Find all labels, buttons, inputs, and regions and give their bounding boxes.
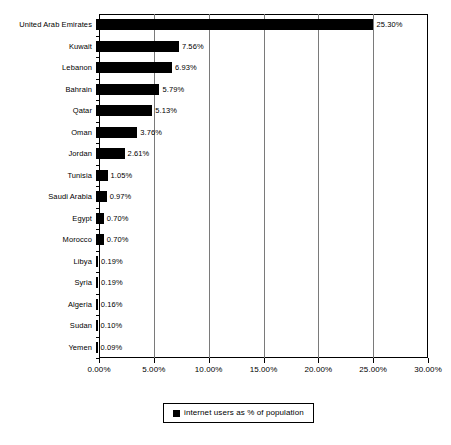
category-label: Sudan <box>0 322 96 330</box>
y-tick <box>96 186 100 187</box>
category-label: Qatar <box>0 107 96 115</box>
x-tick-label: 10.00% <box>195 366 223 374</box>
category-label: Saudi Arabia <box>0 193 96 201</box>
bar <box>96 299 98 310</box>
y-tick <box>96 208 100 209</box>
category-label: Algeria <box>0 301 96 309</box>
y-tick <box>96 272 100 273</box>
y-tick <box>96 79 100 80</box>
bar <box>96 170 108 181</box>
bar-value-label: 0.70% <box>107 215 129 223</box>
bar-value-label: 7.56% <box>182 43 204 51</box>
y-tick <box>96 337 100 338</box>
bar-value-label: 0.16% <box>101 301 123 309</box>
y-tick <box>96 122 100 123</box>
y-tick <box>96 57 100 58</box>
bar <box>96 105 152 116</box>
category-label: Lebanon <box>0 64 96 72</box>
x-tick <box>209 358 210 363</box>
y-tick <box>96 143 100 144</box>
category-label: Morocco <box>0 236 96 244</box>
category-label: Tunisia <box>0 172 96 180</box>
x-axis-labels: 0.00%5.00%10.00%15.00%20.00%25.00%30.00% <box>0 366 451 378</box>
bar-value-label: 2.61% <box>128 150 150 158</box>
y-tick <box>96 165 100 166</box>
bar-row: Morocco0.70% <box>0 229 451 251</box>
bar-value-label: 5.13% <box>155 107 177 115</box>
legend-label: internet users as % of population <box>184 409 304 417</box>
bar-row: Qatar5.13% <box>0 100 451 122</box>
bar-row: United Arab Emirates25.30% <box>0 14 451 36</box>
bar <box>96 277 98 288</box>
gridline <box>264 14 265 358</box>
bar-track: 0.10% <box>96 315 451 337</box>
gridline <box>318 14 319 358</box>
bar-row: Oman3.76% <box>0 122 451 144</box>
category-label: United Arab Emirates <box>0 21 96 29</box>
bar-track: 25.30% <box>96 14 451 36</box>
bar <box>96 19 373 30</box>
bar-row: Lebanon6.93% <box>0 57 451 79</box>
bar-row: Algeria0.16% <box>0 294 451 316</box>
x-tick-label: 30.00% <box>414 366 442 374</box>
x-tick-label: 5.00% <box>142 366 165 374</box>
bar <box>96 84 159 95</box>
x-tick-label: 20.00% <box>304 366 332 374</box>
bar-row: Egypt0.70% <box>0 208 451 230</box>
x-tick <box>373 358 374 363</box>
bar <box>96 148 125 159</box>
bar <box>96 320 98 331</box>
bar-value-label: 0.19% <box>101 279 123 287</box>
bar-track: 5.13% <box>96 100 451 122</box>
gridline <box>373 14 374 358</box>
y-tick <box>96 229 100 230</box>
bar <box>96 213 104 224</box>
bar-track: 3.76% <box>96 122 451 144</box>
bar-track: 0.16% <box>96 294 451 316</box>
bar-track: 5.79% <box>96 79 451 101</box>
bar-track: 0.97% <box>96 186 451 208</box>
y-tick <box>96 315 100 316</box>
bar-row: Tunisia1.05% <box>0 165 451 187</box>
bar-rows: United Arab Emirates25.30%Kuwait7.56%Leb… <box>0 14 451 358</box>
chart-legend: internet users as % of population <box>163 403 314 423</box>
category-label: Libya <box>0 258 96 266</box>
bar-value-label: 0.70% <box>107 236 129 244</box>
x-tick <box>318 358 319 363</box>
bar-value-label: 3.76% <box>140 129 162 137</box>
gridline <box>209 14 210 358</box>
plot-area: United Arab Emirates25.30%Kuwait7.56%Leb… <box>0 0 451 372</box>
category-label: Kuwait <box>0 43 96 51</box>
y-tick <box>96 358 100 359</box>
bar-row: Yemen0.09% <box>0 337 451 359</box>
category-label: Bahrain <box>0 86 96 94</box>
y-tick <box>96 100 100 101</box>
bar-value-label: 5.79% <box>162 86 184 94</box>
x-tick-label: 25.00% <box>359 366 387 374</box>
bar-track: 0.19% <box>96 251 451 273</box>
bar <box>96 41 179 52</box>
bar-track: 0.70% <box>96 229 451 251</box>
bar <box>96 127 137 138</box>
bar-track: 0.09% <box>96 337 451 359</box>
bar-chart: United Arab Emirates25.30%Kuwait7.56%Leb… <box>0 0 451 445</box>
x-tick-label: 0.00% <box>87 366 110 374</box>
x-tick <box>428 358 429 363</box>
bar-row: Saudi Arabia0.97% <box>0 186 451 208</box>
category-label: Egypt <box>0 215 96 223</box>
category-label: Jordan <box>0 150 96 158</box>
bar-value-label: 0.09% <box>101 344 123 352</box>
bar-value-label: 25.30% <box>376 21 402 29</box>
category-label: Syria <box>0 279 96 287</box>
bar-track: 7.56% <box>96 36 451 58</box>
x-tick <box>154 358 155 363</box>
bar-track: 2.61% <box>96 143 451 165</box>
bar-row: Bahrain5.79% <box>0 79 451 101</box>
bar-track: 6.93% <box>96 57 451 79</box>
bar <box>96 256 98 267</box>
category-label: Oman <box>0 129 96 137</box>
x-tick-label: 15.00% <box>250 366 278 374</box>
bar-track: 1.05% <box>96 165 451 187</box>
bar-value-label: 0.10% <box>101 322 123 330</box>
legend-swatch-icon <box>173 410 180 417</box>
